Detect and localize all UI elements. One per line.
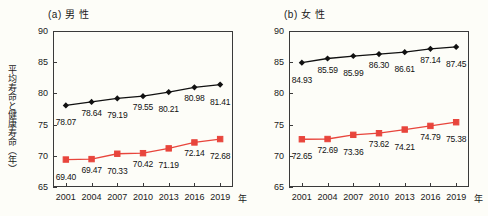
y-axis-label-male: 平均寿命と健康寿命（年）	[4, 44, 20, 194]
data-point-label: 71.19	[159, 160, 179, 170]
data-point-label: 70.33	[107, 166, 127, 176]
data-point-label: 69.40	[56, 172, 76, 182]
y-tick-mark	[53, 31, 57, 32]
x-tick-mark	[117, 183, 118, 187]
y-tick-label: 65	[262, 182, 284, 192]
y-tick-label: 80	[26, 88, 48, 98]
chart-panel-female: (b) 女 性 65707580859020012004200720102013…	[244, 0, 488, 216]
plot-area-female	[289, 31, 469, 187]
data-point-label: 81.41	[210, 97, 230, 107]
panel-title-female: (b) 女 性	[284, 6, 325, 21]
y-tick-label: 85	[262, 57, 284, 67]
data-point-label: 86.61	[395, 64, 415, 74]
y-tick-mark	[289, 93, 293, 94]
y-tick-label: 90	[262, 26, 284, 36]
data-point-label: 87.14	[420, 55, 440, 65]
panel-title-male: (a) 男 性	[48, 6, 89, 21]
data-point-label: 70.42	[133, 159, 153, 169]
data-point-label: 84.93	[292, 75, 312, 85]
y-tick-mark	[53, 93, 57, 94]
x-tick-mark	[328, 183, 329, 187]
data-point-label: 86.30	[369, 60, 389, 70]
x-tick-mark	[169, 183, 170, 187]
y-tick-label: 90	[26, 26, 48, 36]
data-point-label: 80.98	[184, 93, 204, 103]
x-tick-mark	[456, 183, 457, 187]
data-point-label: 74.21	[395, 142, 415, 152]
x-tick-label: 2019	[441, 192, 471, 202]
x-tick-mark	[66, 183, 67, 187]
x-tick-mark	[302, 183, 303, 187]
x-tick-mark	[379, 183, 380, 187]
data-point-label: 87.45	[446, 59, 466, 69]
y-tick-label: 70	[26, 151, 48, 161]
data-point-label: 78.07	[56, 117, 76, 127]
y-tick-mark	[289, 125, 293, 126]
x-tick-mark	[405, 183, 406, 187]
y-tick-mark	[289, 31, 293, 32]
data-point-label: 75.38	[446, 134, 466, 144]
y-tick-label: 75	[262, 120, 284, 130]
data-point-label: 73.36	[343, 147, 363, 157]
data-point-label: 79.19	[107, 110, 127, 120]
y-tick-mark	[289, 187, 293, 188]
data-point-label: 85.99	[343, 68, 363, 78]
data-point-label: 72.65	[292, 151, 312, 161]
x-tick-mark	[92, 183, 93, 187]
y-tick-label: 70	[262, 151, 284, 161]
data-point-label: 80.21	[159, 104, 179, 114]
x-tick-mark	[194, 183, 195, 187]
data-point-label: 72.68	[210, 151, 230, 161]
y-tick-mark	[53, 62, 57, 63]
data-point-label: 74.79	[420, 132, 440, 142]
x-tick-label: 2019	[205, 192, 235, 202]
y-tick-label: 80	[262, 88, 284, 98]
y-tick-label: 75	[26, 120, 48, 130]
y-tick-mark	[53, 156, 57, 157]
y-tick-mark	[289, 62, 293, 63]
y-tick-mark	[53, 187, 57, 188]
chart-panel-male: (a) 男 性 平均寿命と健康寿命（年） 6570758085902001200…	[0, 0, 244, 216]
x-axis-unit-label: 年	[474, 192, 483, 205]
x-tick-mark	[220, 183, 221, 187]
data-point-label: 72.14	[184, 148, 204, 158]
x-tick-mark	[353, 183, 354, 187]
data-point-label: 72.69	[317, 145, 337, 155]
data-point-label: 78.64	[81, 108, 101, 118]
y-tick-label: 85	[26, 57, 48, 67]
x-tick-mark	[143, 183, 144, 187]
x-tick-mark	[430, 183, 431, 187]
data-point-label: 69.47	[81, 165, 101, 175]
life-expectancy-figure: (a) 男 性 平均寿命と健康寿命（年） 6570758085902001200…	[0, 0, 488, 216]
y-tick-label: 65	[26, 182, 48, 192]
data-point-label: 79.55	[133, 102, 153, 112]
data-point-label: 73.62	[369, 139, 389, 149]
data-point-label: 85.59	[317, 65, 337, 75]
